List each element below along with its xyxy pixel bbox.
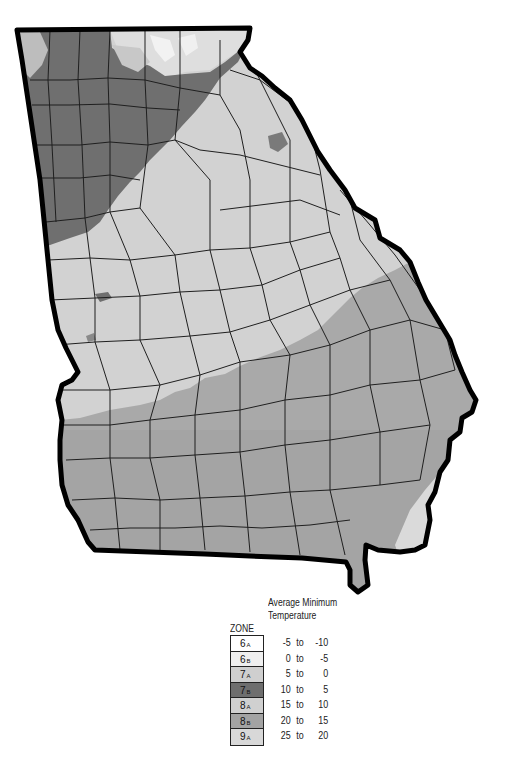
legend-swatch-8a: 8A	[231, 698, 263, 714]
georgia-hardiness-map	[0, 0, 507, 600]
legend-temp-6a: -5to-10	[272, 635, 328, 651]
legend-zone-header: ZONE	[230, 622, 254, 635]
legend-temp-6b: 0to-5	[272, 651, 328, 667]
legend-temperature-ranges: -5to-10 0to-5 5to0 10to5 15to10 20to15 2…	[272, 635, 338, 744]
legend-swatch-8b: 8B	[231, 714, 263, 730]
legend-temperature-header: Average Minimum Temperature	[268, 596, 337, 622]
legend-temp-7a: 5to0	[272, 666, 328, 682]
temp-header-line2: Temperature	[268, 609, 337, 622]
legend-swatch-6b: 6B	[231, 652, 263, 668]
legend-swatch-7b: 7B	[231, 683, 263, 699]
legend-temp-7b: 10to5	[272, 682, 328, 698]
legend-swatch-9a: 9A	[231, 729, 263, 745]
temp-header-line1: Average Minimum	[268, 596, 337, 609]
legend-swatch-7a: 7A	[231, 667, 263, 683]
legend-temp-8b: 20to15	[272, 713, 328, 729]
legend-zone-swatches: 6A 6B 7A 7B 8A 8B 9A	[230, 635, 264, 746]
legend-swatch-6a: 6A	[231, 636, 263, 652]
legend-temp-8a: 15to10	[272, 697, 328, 713]
legend-temp-9a: 25to20	[272, 728, 328, 744]
